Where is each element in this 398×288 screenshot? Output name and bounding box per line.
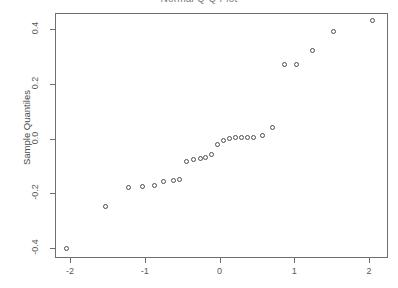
data-point	[251, 135, 256, 140]
y-tick-label: -0.2	[30, 179, 40, 205]
data-point	[233, 135, 238, 140]
x-tick-mark	[294, 258, 295, 263]
data-point	[103, 204, 108, 209]
qq-plot-figure: Normal Q-Q Plot Sample Quantiles 0.40.20…	[0, 0, 398, 288]
data-point	[209, 152, 214, 157]
data-point	[184, 159, 189, 164]
data-point	[260, 133, 265, 138]
y-tick-label: 0.0	[30, 125, 40, 151]
x-tick-mark	[369, 258, 370, 263]
data-point	[310, 48, 315, 53]
x-tick-mark	[220, 258, 221, 263]
x-tick-mark	[70, 258, 71, 263]
data-point	[126, 185, 131, 190]
x-tick-label: 2	[354, 266, 384, 276]
data-point	[215, 142, 220, 147]
data-point	[245, 135, 250, 140]
data-point	[331, 29, 336, 34]
data-point	[370, 18, 375, 23]
data-point	[191, 157, 196, 162]
chart-title: Normal Q-Q Plot	[0, 0, 398, 4]
y-tick-label: -0.4	[30, 234, 40, 260]
data-point	[64, 246, 69, 251]
x-tick-label: 0	[205, 266, 235, 276]
data-point	[140, 184, 145, 189]
data-point	[198, 156, 203, 161]
data-point	[203, 155, 208, 160]
data-point	[270, 125, 275, 130]
data-point	[282, 62, 287, 67]
x-tick-label: -1	[130, 266, 160, 276]
data-point	[177, 177, 182, 182]
data-point	[161, 179, 166, 184]
scatter-points-layer	[55, 13, 388, 258]
data-point	[221, 138, 226, 143]
data-point	[171, 178, 176, 183]
x-tick-label: -2	[55, 266, 85, 276]
x-tick-mark	[145, 258, 146, 263]
x-tick-label: 1	[279, 266, 309, 276]
data-point	[152, 183, 157, 188]
y-tick-label: 0.2	[30, 70, 40, 96]
data-point	[294, 62, 299, 67]
y-tick-label: 0.4	[30, 15, 40, 41]
data-point	[239, 135, 244, 140]
data-point	[227, 136, 232, 141]
